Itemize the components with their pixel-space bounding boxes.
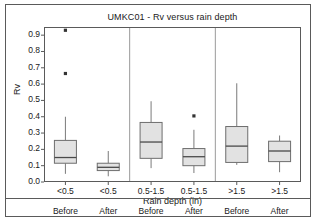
outlier-marker	[192, 114, 195, 117]
box-iqr	[140, 122, 162, 158]
outlier-marker	[64, 29, 67, 32]
box-iqr	[54, 140, 76, 163]
outlier-marker	[64, 72, 67, 75]
figure-container: UMKC01 - Rv versus rain depth Rv 0.00.10…	[0, 0, 317, 223]
bottom-divider-rule	[6, 198, 310, 199]
boxplot-canvas	[0, 0, 317, 223]
plot-frame	[45, 28, 301, 182]
box-iqr	[226, 127, 248, 163]
